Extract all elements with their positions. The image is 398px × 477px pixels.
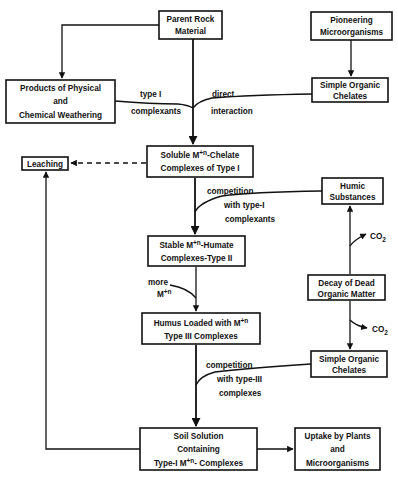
- label-co2-lower: CO2: [372, 325, 388, 336]
- label-competition-type3: competition with type-III complexes: [206, 361, 262, 398]
- edge-label: with type-I: [223, 201, 264, 210]
- node-label: Material: [175, 27, 206, 36]
- edge-label: complexes: [219, 389, 262, 398]
- node-label: and: [330, 445, 345, 454]
- node-simple-chelates-bottom: Simple Organic Chelates: [311, 351, 387, 377]
- edge-more-m-merge: [170, 285, 196, 298]
- edge-co2-upper: [350, 234, 366, 246]
- edge-label: CO2: [372, 325, 388, 336]
- node-label: Humus Loaded with M+n: [154, 317, 249, 328]
- edge-label: competition: [206, 361, 252, 370]
- node-label: Complexes of Type I: [160, 164, 239, 173]
- node-label: Substances: [330, 193, 376, 202]
- node-label: Simple Organic: [319, 355, 380, 364]
- soil-metal-complexation-diagram: Parent Rock Material Pioneering Microorg…: [0, 0, 398, 477]
- node-label: Humic: [340, 182, 365, 191]
- edge-co2-lower: [350, 320, 367, 328]
- node-label: Products of Physical: [20, 84, 101, 93]
- node-uptake: Uptake by Plants and Microorganisms: [295, 428, 380, 470]
- node-humic-substances: Humic Substances: [322, 178, 383, 204]
- node-label: Parent Rock: [167, 15, 215, 24]
- node-soil-solution: Soil Solution Containing Type-I M+n- Com…: [140, 428, 257, 470]
- node-label: Leaching: [27, 160, 63, 169]
- edge-label: with type-III: [216, 375, 262, 384]
- label-direct-interaction: direct interaction: [211, 90, 253, 116]
- node-label: Soil Solution: [173, 432, 223, 441]
- node-label: Chemical Weathering: [19, 111, 102, 120]
- node-label: Type III Complexes: [164, 332, 238, 341]
- node-leaching: Leaching: [22, 157, 68, 170]
- edge-label: competition: [207, 187, 253, 196]
- edge-chelates-merge: [193, 94, 312, 108]
- edge-label: type I: [140, 90, 161, 99]
- edge-label: M+n: [157, 288, 172, 299]
- edge-parent-to-products: [62, 25, 159, 78]
- node-label: Organic Matter: [318, 290, 377, 299]
- node-label: Containing: [177, 445, 220, 454]
- node-parent-rock: Parent Rock Material: [159, 11, 222, 39]
- node-label: Pioneering: [330, 16, 372, 25]
- edge-label: CO2: [370, 232, 386, 243]
- node-label: Complexes-Type II: [161, 254, 233, 263]
- edge-label: more: [148, 278, 168, 287]
- edge-label: interaction: [211, 107, 253, 116]
- node-pioneering: Pioneering Microorganisms: [311, 12, 392, 40]
- node-label: Decay of Dead: [318, 279, 374, 288]
- node-products: Products of Physical and Chemical Weathe…: [6, 80, 115, 123]
- node-label: Microorganisms: [320, 28, 384, 37]
- node-label: and: [53, 97, 68, 106]
- node-label: Type-I M+n- Complexes: [154, 457, 244, 468]
- node-label: Chelates: [333, 92, 368, 101]
- edge-label: direct: [212, 90, 235, 99]
- node-label: Simple Organic: [320, 81, 381, 90]
- node-label: Microorganisms: [306, 459, 370, 468]
- node-label: Chelates: [332, 366, 367, 375]
- edge-label: complexants: [225, 215, 275, 224]
- node-decay: Decay of Dead Organic Matter: [308, 275, 385, 300]
- node-label: Uptake by Plants: [305, 432, 371, 441]
- edge-label: complexants: [131, 107, 181, 116]
- label-more-m: more M+n: [148, 278, 172, 299]
- edge-soil-to-leaching: [46, 172, 140, 449]
- node-stable-humate: Stable M+n-Humate Complexes-Type II: [148, 236, 245, 266]
- node-soluble-chelate: Soluble M+n-Chelate Complexes of Type I: [147, 146, 253, 177]
- label-co2-upper: CO2: [370, 232, 386, 243]
- node-simple-chelates-top: Simple Organic Chelates: [312, 78, 388, 102]
- node-humus-loaded: Humus Loaded with M+n Type III Complexes: [142, 313, 260, 344]
